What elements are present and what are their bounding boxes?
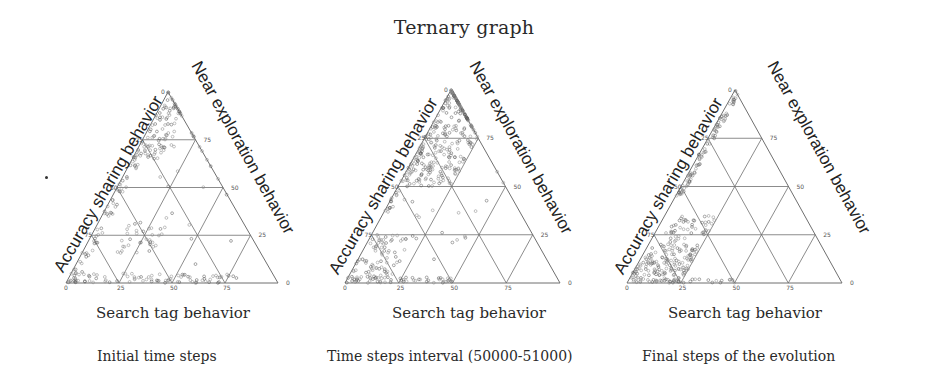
- bottom-tick-label: 75: [786, 284, 794, 291]
- bottom-tick-label: 50: [170, 284, 178, 291]
- panel-1-bottom-axis-label: Search tag behavior: [96, 304, 250, 322]
- panel-2-bottom-axis-label: Search tag behavior: [392, 304, 546, 322]
- left-tick-label: 0: [728, 86, 732, 93]
- right-tick-label: 50: [514, 183, 522, 190]
- gridline: [708, 138, 788, 283]
- right-tick-label: 0: [568, 279, 572, 286]
- bottom-tick-label: 75: [504, 284, 512, 291]
- bottom-tick-label: 0: [625, 284, 629, 291]
- bottom-tick-label: 0: [343, 284, 347, 291]
- gridline: [506, 235, 533, 283]
- gridline: [399, 138, 479, 283]
- right-tick-label: 50: [797, 183, 805, 190]
- right-tick-label: 0: [850, 279, 854, 286]
- right-tick-label: 75: [770, 134, 778, 141]
- bottom-tick-label: 25: [679, 284, 687, 291]
- bottom-tick-label: 75: [223, 284, 231, 291]
- panel-1-caption: Initial time steps: [97, 348, 217, 364]
- panel-2-caption: Time steps interval (50000-51000): [327, 348, 573, 364]
- bottom-tick-label: 0: [64, 284, 68, 291]
- right-tick-label: 0: [286, 279, 290, 286]
- left-tick-label: 0: [161, 88, 165, 95]
- panel-3-bottom-axis-label: Search tag behavior: [668, 304, 822, 322]
- left-tick-label: 0: [444, 86, 448, 93]
- gridline: [788, 235, 815, 283]
- right-tick-label: 25: [823, 231, 831, 238]
- right-tick-label: 75: [486, 134, 494, 141]
- bottom-tick-label: 50: [733, 284, 741, 291]
- bottom-tick-label: 25: [117, 284, 125, 291]
- gridline: [225, 235, 251, 283]
- right-tick-label: 25: [259, 231, 267, 238]
- ternary-plots: 0002525255050507575750002525255050507575…: [0, 0, 928, 384]
- right-tick-label: 50: [231, 184, 239, 191]
- right-tick-label: 25: [541, 231, 549, 238]
- right-tick-label: 75: [204, 136, 212, 143]
- bottom-tick-label: 25: [397, 284, 405, 291]
- panel-3-caption: Final steps of the evolution: [642, 348, 835, 364]
- bottom-tick-label: 50: [451, 284, 459, 291]
